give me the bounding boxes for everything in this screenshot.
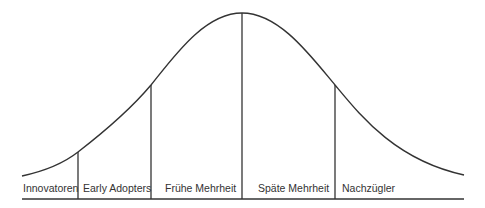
adoption-curve-diagram: Innovatoren Early Adopters Frühe Mehrhei… bbox=[0, 0, 485, 208]
bell-curve bbox=[22, 13, 464, 176]
segment-label-late-majority: Späte Mehrheit bbox=[258, 182, 329, 194]
segment-label-laggards: Nachzügler bbox=[342, 182, 396, 194]
segment-label-innovators: Innovatoren bbox=[23, 182, 79, 194]
segment-label-early-majority: Frühe Mehrheit bbox=[165, 182, 236, 194]
segment-label-early-adopters: Early Adopters bbox=[83, 182, 151, 194]
